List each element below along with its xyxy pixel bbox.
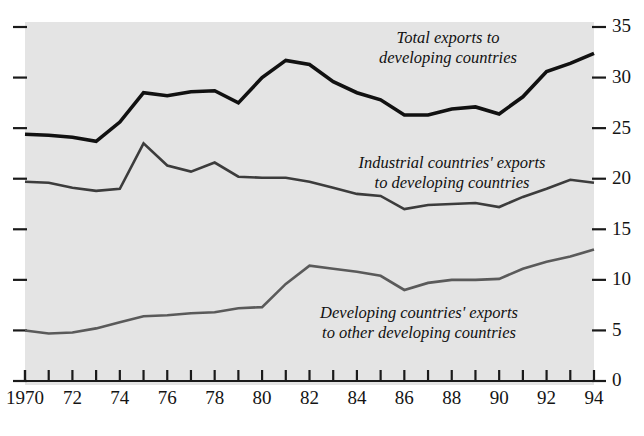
- x-tick-label-1994: 94: [585, 387, 605, 408]
- x-tick-label-1974: 74: [110, 387, 130, 408]
- y-tick-label-5: 5: [612, 319, 622, 340]
- industrial-exports-label-line-1: to developing countries: [375, 173, 530, 192]
- developing-exports-label-line-0: Developing countries' exports: [319, 303, 518, 322]
- x-tick-label-1976: 76: [158, 387, 177, 408]
- y-tick-label-30: 30: [612, 66, 631, 87]
- x-tick-label-1982: 82: [300, 387, 319, 408]
- developing-exports-label: Developing countries' exportsto other de…: [319, 303, 518, 342]
- line-chart: 05101520253035 1970727476788082848688909…: [0, 0, 644, 436]
- y-tick-label-35: 35: [612, 15, 631, 36]
- x-tick-label-1986: 86: [395, 387, 414, 408]
- y-axis-ticks-left: [13, 27, 27, 381]
- x-tick-label-1988: 88: [442, 387, 461, 408]
- x-tick-label-1980: 80: [253, 387, 272, 408]
- y-axis-tick-labels: 05101520253035: [612, 15, 631, 390]
- industrial-exports-label-line-0: Industrial countries' exports: [358, 153, 546, 172]
- total-exports-label-line-1: developing countries: [379, 48, 517, 67]
- y-tick-label-0: 0: [612, 369, 622, 390]
- y-tick-label-15: 15: [612, 218, 631, 239]
- total-exports-label-line-0: Total exports to: [397, 28, 500, 47]
- x-tick-label-1992: 92: [537, 387, 556, 408]
- y-tick-label-25: 25: [612, 117, 631, 138]
- y-axis-ticks-right: [592, 27, 606, 381]
- x-tick-label-1984: 84: [347, 387, 367, 408]
- chart-figure: 05101520253035 1970727476788082848688909…: [0, 0, 644, 436]
- y-tick-label-10: 10: [612, 268, 631, 289]
- x-tick-label-1972: 72: [63, 387, 82, 408]
- industrial-exports-label: Industrial countries' exportsto developi…: [358, 153, 546, 192]
- x-tick-label-1970: 1970: [6, 387, 44, 408]
- y-tick-label-20: 20: [612, 167, 631, 188]
- total-exports-label: Total exports todeveloping countries: [379, 28, 517, 67]
- developing-exports-label-line-1: to other developing countries: [322, 323, 516, 342]
- x-tick-label-1990: 90: [490, 387, 509, 408]
- x-axis-tick-labels: 1970727476788082848688909294: [6, 387, 604, 408]
- x-tick-label-1978: 78: [205, 387, 224, 408]
